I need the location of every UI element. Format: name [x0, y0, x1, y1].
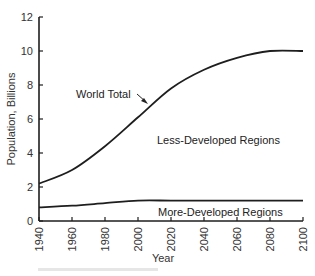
y-tick-label: 12: [21, 11, 33, 23]
world-total-arrow: [137, 94, 148, 104]
y-axis-title: Population, Billions: [5, 72, 17, 165]
population-chart: 0246810121940196019802000202020402060208…: [0, 0, 315, 276]
x-tick-label: 2020: [165, 227, 177, 251]
series-lines: [39, 50, 303, 207]
x-tick-label: 1960: [66, 227, 78, 251]
x-tick-label: 2040: [198, 227, 210, 251]
x-tick-label: 1980: [99, 227, 111, 251]
more-developed-label: More-Developed Regions: [158, 206, 283, 218]
y-tick-label: 8: [27, 79, 33, 91]
cropped-caption: [38, 268, 158, 271]
y-tick-label: 2: [27, 181, 33, 193]
x-axis-title: Year: [152, 252, 175, 264]
y-tick-label: 10: [21, 45, 33, 57]
x-tick-label: 2060: [231, 227, 243, 251]
x-tick-label: 2000: [132, 227, 144, 251]
x-tick-label: 2080: [264, 227, 276, 251]
less-developed-label: Less-Developed Regions: [157, 134, 280, 146]
y-tick-label: 0: [27, 215, 33, 227]
y-tick-label: 4: [27, 147, 33, 159]
world-total-label: World Total: [76, 88, 131, 100]
x-tick-label: 2100: [297, 227, 309, 251]
world-total-line: [39, 50, 303, 183]
y-tick-label: 6: [27, 113, 33, 125]
x-tick-label: 1940: [33, 227, 45, 251]
